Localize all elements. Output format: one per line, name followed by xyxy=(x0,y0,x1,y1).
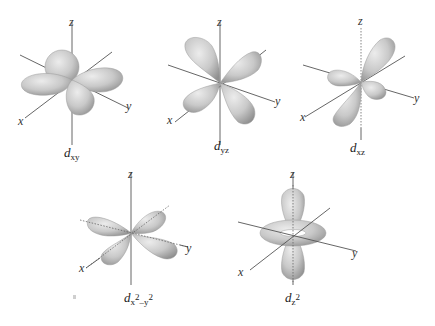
lobe-right xyxy=(361,81,386,99)
orbital-dz2: z y x dz2 xyxy=(237,167,358,307)
x-label: x xyxy=(237,265,244,279)
d-orbitals-diagram: z y x dxy z y x dyz z y x dxz xyxy=(0,0,435,326)
x-label: x xyxy=(78,261,85,275)
z-label: z xyxy=(216,15,222,29)
z-label: z xyxy=(127,167,133,181)
orbital-label-dx2-y2: dx2–y2 xyxy=(124,290,153,307)
lobe-upper-right xyxy=(131,211,166,233)
orbital-dx2-y2: z y x dx2–y2 xyxy=(73,167,192,307)
lobe-lower-left xyxy=(183,83,220,112)
x-label: x xyxy=(299,110,306,124)
z-label: z xyxy=(68,15,74,29)
x-label: x xyxy=(166,113,173,127)
lobe-upper-left xyxy=(185,37,220,83)
x-label: x xyxy=(17,114,24,128)
orbital-label-dyz: dyz xyxy=(214,138,229,155)
lobe-left xyxy=(21,73,72,95)
orbital-label-dxz: dxz xyxy=(350,140,365,157)
y-label: y xyxy=(413,91,420,105)
y-label: y xyxy=(185,241,192,255)
stray-mark xyxy=(73,295,76,299)
orbital-dyz: z y x dyz xyxy=(166,15,281,155)
lobe-lower xyxy=(333,82,361,126)
lobe-front xyxy=(101,233,131,265)
orbital-label-dxy: dxy xyxy=(64,145,80,162)
orbital-label-dz2: dz2 xyxy=(285,290,300,307)
lobe-right xyxy=(131,233,177,259)
lobe-left xyxy=(87,217,131,236)
y-label: y xyxy=(125,99,132,113)
lobe-left xyxy=(328,70,361,86)
z-label: z xyxy=(289,167,295,181)
lobe-upper xyxy=(361,38,395,82)
z-label: z xyxy=(357,14,363,28)
orbital-dxy: z y x dxy xyxy=(17,15,132,162)
y-label: y xyxy=(274,94,281,108)
orbital-dxz: z y x dxz xyxy=(299,14,420,157)
lobe-upper-right xyxy=(220,52,261,83)
y-label: y xyxy=(351,246,358,260)
